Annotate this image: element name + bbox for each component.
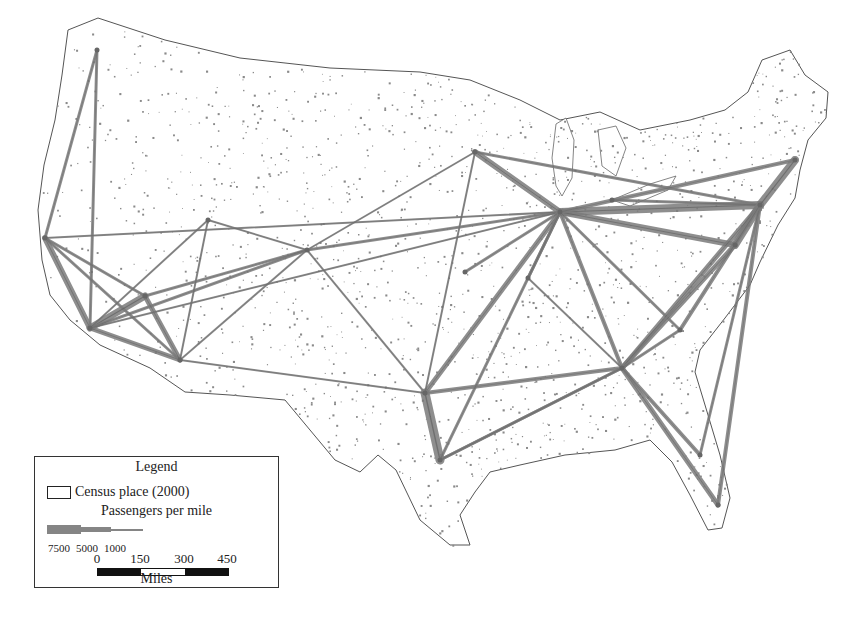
census-place: [659, 276, 660, 277]
census-place: [732, 294, 734, 296]
census-place: [303, 71, 304, 72]
census-place: [650, 140, 651, 141]
census-place: [500, 399, 502, 401]
census-place: [681, 382, 683, 384]
census-place: [140, 100, 142, 102]
census-place: [243, 386, 245, 388]
census-place: [124, 349, 125, 350]
census-place: [193, 209, 195, 211]
census-place: [292, 114, 293, 115]
census-place: [435, 114, 437, 116]
census-place: [364, 71, 365, 72]
census-place: [757, 90, 759, 92]
census-place: [566, 307, 568, 309]
census-place: [485, 208, 486, 209]
census-place: [597, 428, 599, 430]
census-place: [404, 299, 406, 301]
census-place: [76, 320, 78, 322]
census-place: [421, 505, 423, 507]
census-place: [693, 136, 694, 137]
census-place: [414, 395, 415, 396]
census-place: [329, 451, 331, 453]
census-place: [604, 196, 605, 197]
census-place: [632, 253, 634, 255]
census-place: [360, 271, 361, 272]
census-place: [134, 264, 135, 265]
census-place: [696, 349, 698, 351]
census-place: [729, 291, 730, 292]
census-place: [356, 438, 358, 440]
census-place: [336, 435, 337, 436]
census-place: [668, 290, 669, 291]
census-place: [540, 322, 541, 323]
census-place: [251, 348, 252, 349]
census-place: [280, 172, 282, 174]
census-place: [416, 407, 418, 409]
census-place: [676, 377, 678, 379]
census-place: [691, 426, 692, 427]
census-place: [439, 190, 440, 191]
census-place: [752, 82, 754, 84]
census-place: [706, 308, 708, 310]
census-place: [558, 360, 559, 361]
census-place: [165, 374, 167, 376]
census-place: [205, 348, 206, 349]
census-place: [722, 283, 723, 284]
census-place: [578, 393, 579, 394]
census-place: [43, 192, 45, 194]
census-place: [428, 224, 429, 225]
census-place: [710, 475, 712, 477]
census-place: [239, 258, 241, 260]
census-place: [624, 397, 625, 398]
census-place: [426, 75, 427, 76]
census-place: [418, 165, 420, 167]
hub-marker: [758, 203, 763, 208]
census-place: [644, 424, 645, 425]
census-place: [563, 129, 565, 131]
census-place: [440, 468, 442, 470]
census-place: [217, 145, 218, 146]
census-place: [462, 432, 463, 433]
census-place: [384, 391, 386, 393]
census-place: [169, 212, 170, 213]
census-place: [672, 166, 673, 167]
hub-marker: [610, 198, 615, 203]
census-place: [751, 157, 752, 158]
census-place: [457, 397, 459, 399]
census-place: [270, 312, 271, 313]
census-place: [324, 393, 325, 394]
census-place: [410, 196, 412, 198]
census-place: [134, 53, 136, 55]
census-place: [540, 263, 541, 264]
census-place: [267, 287, 268, 288]
census-place: [619, 283, 620, 284]
census-place: [448, 332, 449, 333]
census-place: [284, 292, 285, 293]
census-place: [534, 158, 535, 159]
census-place: [585, 349, 586, 350]
census-place: [544, 206, 546, 208]
census-place: [114, 197, 115, 198]
census-place: [796, 125, 798, 127]
census-place: [294, 279, 296, 281]
census-place: [369, 234, 370, 235]
census-place: [784, 121, 786, 123]
census-place: [336, 166, 338, 168]
census-place: [486, 369, 488, 371]
census-place: [191, 389, 193, 391]
census-place: [485, 99, 486, 100]
census-place: [617, 417, 619, 419]
census-place: [261, 295, 262, 296]
census-place: [267, 138, 268, 139]
census-place: [813, 91, 815, 93]
census-place: [482, 218, 483, 219]
census-place: [716, 200, 717, 201]
census-place: [689, 217, 691, 219]
census-place: [320, 111, 321, 112]
census-place: [576, 431, 578, 433]
census-place: [440, 165, 442, 167]
census-place: [562, 340, 564, 342]
census-place: [702, 410, 704, 412]
hub-marker: [463, 270, 468, 275]
census-place: [479, 449, 480, 450]
